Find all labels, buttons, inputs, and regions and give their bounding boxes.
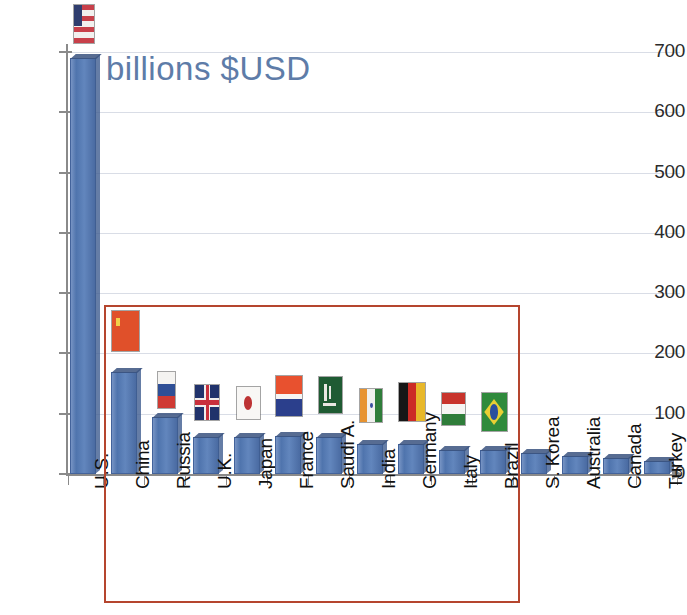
y-axis-line xyxy=(66,44,68,476)
bar-u-s xyxy=(70,58,96,474)
gridline-600 xyxy=(66,112,680,113)
bar-face xyxy=(70,58,96,474)
y-tick-label-200: 200 xyxy=(633,341,685,363)
x-axis-label-australia: Australia xyxy=(583,417,605,489)
y-tick-label-300: 300 xyxy=(633,281,685,303)
gridline-500 xyxy=(66,173,680,174)
x-axis-label-canada: Canada xyxy=(624,424,646,489)
y-tick-700 xyxy=(59,51,72,53)
x-axis-label-s-korea: S. Korea xyxy=(542,417,564,489)
y-tick-label-600: 600 xyxy=(633,100,685,122)
bar-top xyxy=(70,54,102,59)
flag-us xyxy=(73,4,95,44)
chart-title: billions $USD xyxy=(106,50,311,88)
x-tick-origin xyxy=(68,474,69,485)
y-tick-label-400: 400 xyxy=(633,221,685,243)
highlight-box xyxy=(104,305,520,603)
y-tick-label-500: 500 xyxy=(633,161,685,183)
y-tick-label-100: 100 xyxy=(633,402,685,424)
gridline-400 xyxy=(66,233,680,234)
gridline-300 xyxy=(66,293,680,294)
bar-side xyxy=(95,54,100,474)
y-tick-label-700: 700 xyxy=(633,40,685,62)
x-axis-label-turkey: Turkey xyxy=(665,433,687,489)
